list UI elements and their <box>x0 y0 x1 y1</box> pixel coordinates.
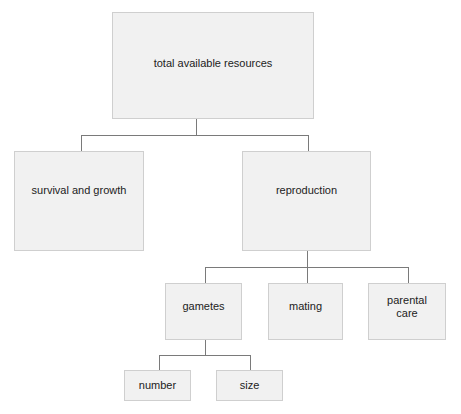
node-label: reproduction <box>276 184 337 197</box>
connector-to-parental-care <box>408 267 409 283</box>
connector-reproduction-down <box>307 251 308 268</box>
node-parental-care: parental care <box>368 283 446 340</box>
node-size: size <box>216 370 283 401</box>
connector-level3-bar <box>159 355 251 356</box>
node-label: survival and growth <box>32 184 127 197</box>
connector-gametes-down <box>205 340 206 356</box>
node-total-available-resources: total available resources <box>112 12 314 119</box>
node-label: total available resources <box>154 57 273 70</box>
connector-to-survival <box>81 135 82 151</box>
connector-to-gametes <box>205 267 206 283</box>
connector-total-down <box>196 119 197 136</box>
node-survival-and-growth: survival and growth <box>14 151 144 251</box>
node-label: parental care <box>387 294 427 320</box>
node-label: gametes <box>182 300 224 313</box>
node-label: size <box>240 379 260 392</box>
node-gametes: gametes <box>165 283 242 340</box>
node-mating: mating <box>268 283 343 340</box>
connector-level1-bar <box>81 135 309 136</box>
node-number: number <box>124 370 191 401</box>
node-reproduction: reproduction <box>242 151 371 251</box>
connector-to-number <box>159 355 160 370</box>
node-label: number <box>139 379 176 392</box>
connector-to-mating <box>307 267 308 283</box>
node-label: mating <box>289 300 322 313</box>
connector-to-reproduction <box>308 135 309 151</box>
connector-to-size <box>250 355 251 370</box>
